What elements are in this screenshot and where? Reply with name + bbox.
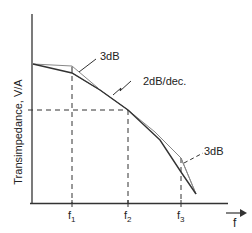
x-axis-label: f <box>233 216 237 230</box>
leader-top-3db <box>79 59 96 72</box>
leader-slope <box>113 81 131 95</box>
annotation-slope: 2dB/dec. <box>143 75 186 87</box>
leader-bottom-3db <box>184 153 203 163</box>
annotation-top-3db: 3dB <box>100 50 120 62</box>
arrow-right-icon <box>240 209 247 217</box>
x-tick-label-f1: f1 <box>68 209 76 224</box>
transimpedance-frequency-diagram: 3dB 2dB/dec. 3dB Transimpedance, V/A f1 … <box>0 0 252 233</box>
annotation-bottom-3db: 3dB <box>204 145 224 157</box>
asymptote-segment-top <box>72 66 98 88</box>
x-tick-label-f2: f2 <box>124 209 132 224</box>
y-axis-label: Transimpedance, V/A <box>12 79 24 185</box>
x-tick-label-f3: f3 <box>177 209 185 224</box>
